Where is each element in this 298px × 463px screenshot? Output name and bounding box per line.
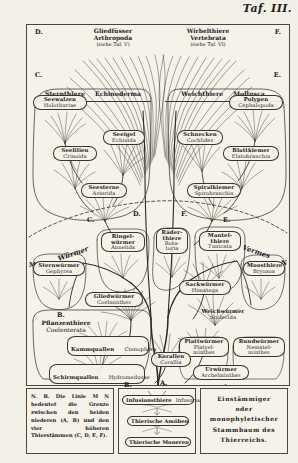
plate-sheet: Taf. III. bbox=[0, 0, 298, 463]
header-mollusca-de: Weichthiere bbox=[181, 90, 223, 97]
note-box: N. B. Die Linie M N bedeutet die Grenze … bbox=[26, 388, 114, 454]
label-corallia-la: Corallia bbox=[155, 360, 187, 365]
label-rotatoria: Räder- thiere Rota- toria bbox=[156, 228, 188, 254]
label-spirobranchia-la: Spirobranchia bbox=[191, 191, 237, 196]
label-corallia: Korallen Corallia bbox=[151, 352, 191, 367]
label-amoeben: Thierische Amöben bbox=[127, 416, 189, 426]
plate-title-line3: monophyletischer bbox=[204, 414, 284, 424]
label-moneren: Thierische Moneren bbox=[125, 437, 191, 447]
letter-A-trunk: A. bbox=[160, 379, 167, 387]
plate-title-line4: Stammbaum des bbox=[204, 425, 284, 435]
label-archelminthes: Urwürmer Archelminthes bbox=[193, 365, 249, 380]
label-cephalopoda-la: Cephalopoda bbox=[233, 103, 279, 108]
label-ctenophora-la: Ctenophora bbox=[124, 346, 156, 352]
label-ctenophora: Kammquallen Ctenophora bbox=[67, 336, 149, 356]
label-cochlides-la: Cochlides bbox=[181, 138, 219, 143]
label-rotatoria-la2: toria bbox=[160, 246, 184, 251]
label-nematelminthes-la2: minthes bbox=[237, 350, 281, 355]
label-cochlides: Schnecken Cochlides bbox=[177, 130, 223, 145]
root-box: InfusionsthiereInfusoria Thierische Amöb… bbox=[118, 388, 196, 454]
label-himatega-la: Himatega bbox=[183, 288, 227, 293]
label-asterida: Seesterne Asterida bbox=[81, 183, 127, 198]
label-asterida-la: Asterida bbox=[85, 191, 123, 196]
label-hydromedusae-la: Hydromedusae bbox=[109, 374, 150, 380]
header-echinoderma-la: Echinoderma bbox=[95, 90, 141, 97]
letter-C-mid: C. bbox=[87, 216, 94, 224]
letter-E-mid: E. bbox=[223, 216, 230, 224]
label-bryozoa: Moosthiere Bryozoa bbox=[243, 261, 285, 276]
label-echinida: Seeigel Echinida bbox=[103, 130, 145, 145]
engraving-frame: D. F. Gliedfüsser Arthropoda (siehe Taf.… bbox=[26, 24, 290, 386]
letter-D-top: D. bbox=[35, 28, 43, 36]
label-tunicata: Mantel- thiere Tunicata bbox=[199, 231, 241, 251]
header-arthropoda: Gliedfüsser Arthropoda (siehe Taf. V) bbox=[73, 27, 153, 47]
header-coelenterata: Pflanzenthiere Coelenterata bbox=[35, 319, 97, 333]
letter-F-mid: F. bbox=[181, 210, 187, 218]
label-infusoria-la: Infusoria bbox=[176, 397, 200, 403]
note-text: N. B. Die Linie M N bedeutet die Grenze … bbox=[31, 393, 109, 440]
header-arthropoda-de: Gliedfüsser bbox=[73, 27, 153, 34]
label-hydromedusae-de: Schirmquallen bbox=[53, 374, 99, 380]
label-holothuriae: Seewalzen Holothuriae bbox=[33, 95, 87, 110]
letter-E-top: E. bbox=[274, 71, 281, 79]
plate-title-line1: Einstämmiger bbox=[204, 394, 284, 404]
label-coelminthes: Gliedwürmer Coelminthes bbox=[85, 292, 143, 307]
label-crinoida-la: Crinoida bbox=[57, 154, 93, 159]
title-box: Einstämmiger oder monophyletischer Stamm… bbox=[200, 388, 288, 454]
label-gephyrea-la: Gephyrea bbox=[37, 269, 81, 274]
label-cephalopoda: Polypen Cephalopoda bbox=[229, 95, 283, 110]
label-nematelminthes: Rundwürmer Nematel- minthes bbox=[233, 337, 285, 357]
label-elatobranchia: Blattkiemer Elatobranchia bbox=[223, 146, 279, 161]
label-elatobranchia-la: Elatobranchia bbox=[227, 154, 275, 159]
letter-C-top: C. bbox=[35, 71, 42, 79]
label-holothuriae-la: Holothuriae bbox=[37, 103, 83, 108]
letter-D-mid: D. bbox=[133, 210, 141, 218]
label-infusoria: InfusionsthiereInfusoria bbox=[122, 395, 194, 405]
plate-number: Taf. III. bbox=[243, 2, 292, 15]
header-coelenterata-la: Coelenterata bbox=[35, 326, 97, 333]
plate-title-line2: oder bbox=[204, 404, 284, 414]
plate-title: Einstämmiger oder monophyletischer Stamm… bbox=[204, 394, 284, 445]
plate-title-line5: Thierreichs. bbox=[204, 435, 284, 445]
header-vertebrata: Wirbelthiere Vertebrata (siehe Taf. VI) bbox=[167, 27, 249, 47]
header-vertebrata-note: (siehe Taf. VI) bbox=[167, 41, 249, 47]
label-gephyrea: Sternwürmer Gephyrea bbox=[33, 261, 85, 276]
label-annelida-la: Annelida bbox=[105, 245, 141, 250]
label-crinoida: Seelilien Crinoida bbox=[53, 146, 97, 161]
label-bryozoa-la: Bryozoa bbox=[247, 269, 281, 274]
header-arthropoda-note: (siehe Taf. V) bbox=[73, 41, 153, 47]
label-infusoria-de: Infusionsthiere bbox=[126, 397, 172, 403]
label-scolecida: Weichwürmer Scolecida bbox=[195, 308, 251, 321]
header-vertebrata-de: Wirbelthiere bbox=[167, 27, 249, 34]
header-arthropoda-la: Arthropoda bbox=[73, 34, 153, 41]
header-coelenterata-de: Pflanzenthiere bbox=[35, 319, 97, 326]
label-archelminthes-la: Archelminthes bbox=[197, 373, 245, 378]
label-coelminthes-la: Coelminthes bbox=[89, 300, 139, 305]
label-ctenophora-de: Kammquallen bbox=[71, 346, 114, 352]
label-himatega: Sackwürmer Himatega bbox=[179, 280, 231, 295]
label-echinida-la: Echinida bbox=[107, 138, 141, 143]
letter-A-header: A. bbox=[223, 383, 230, 386]
letter-B: B. bbox=[57, 311, 65, 319]
label-scolecida-la: Scolecida bbox=[198, 315, 248, 320]
letter-F-top: F. bbox=[275, 28, 281, 36]
label-tunicata-la: Tunicata bbox=[203, 244, 237, 249]
label-annelida: Ringel- würmer Annelida bbox=[101, 232, 145, 252]
label-spirobranchia: Spiralkiemer Spirobranchia bbox=[187, 183, 241, 198]
header-vertebrata-la: Vertebrata bbox=[167, 34, 249, 41]
